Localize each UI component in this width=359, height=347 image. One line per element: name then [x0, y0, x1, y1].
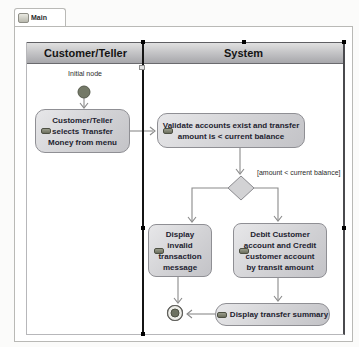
action-icon [163, 128, 173, 134]
initial-node-label: Initial node [56, 70, 114, 77]
action-display-summary[interactable]: Display transfer summary [215, 303, 330, 326]
action-debit-credit[interactable]: Debit Customer account and Credit custom… [233, 223, 327, 278]
edge-validate-to-decision[interactable] [236, 148, 244, 174]
selection-handle[interactable] [342, 40, 346, 44]
action-icon [239, 248, 249, 254]
selection-handle[interactable] [141, 332, 145, 336]
edge-summary-to-final[interactable] [187, 310, 215, 318]
action-icon [41, 128, 51, 134]
selection-handle[interactable] [141, 226, 145, 230]
action-validate-accounts-text: Validate accounts exist and transfer amo… [158, 120, 304, 142]
diagram-tab-label: Main [31, 14, 47, 21]
selection-handle[interactable] [141, 40, 145, 44]
lane-divider[interactable] [142, 42, 144, 335]
edge-decision-to-invalid[interactable] [188, 188, 228, 222]
action-display-summary-text: Display transfer summary [230, 310, 328, 319]
action-icon [217, 312, 227, 318]
action-display-invalid[interactable]: Display invalid transaction message [148, 224, 212, 277]
lane-collapse-marker[interactable] [139, 65, 145, 70]
selection-handle[interactable] [342, 226, 346, 230]
action-validate-accounts[interactable]: Validate accounts exist and transfer amo… [157, 113, 305, 148]
action-icon [154, 248, 164, 254]
selection-handle[interactable] [242, 40, 246, 44]
activity-diagram-icon [18, 13, 29, 23]
decision-node[interactable] [228, 176, 254, 200]
action-select-transfer[interactable]: Customer/Teller selects Transfer Money f… [35, 109, 130, 153]
initial-node[interactable] [78, 86, 90, 98]
guard-label: [amount < current balance] [257, 169, 340, 176]
edge-invalid-to-final[interactable] [174, 277, 182, 303]
edge-decision-to-debit[interactable] [254, 188, 282, 221]
diagram-tab[interactable]: Main [14, 8, 66, 26]
edge-debit-to-summary[interactable] [274, 278, 282, 301]
final-node[interactable] [168, 306, 183, 321]
edge-initial-to-select[interactable] [80, 98, 88, 108]
